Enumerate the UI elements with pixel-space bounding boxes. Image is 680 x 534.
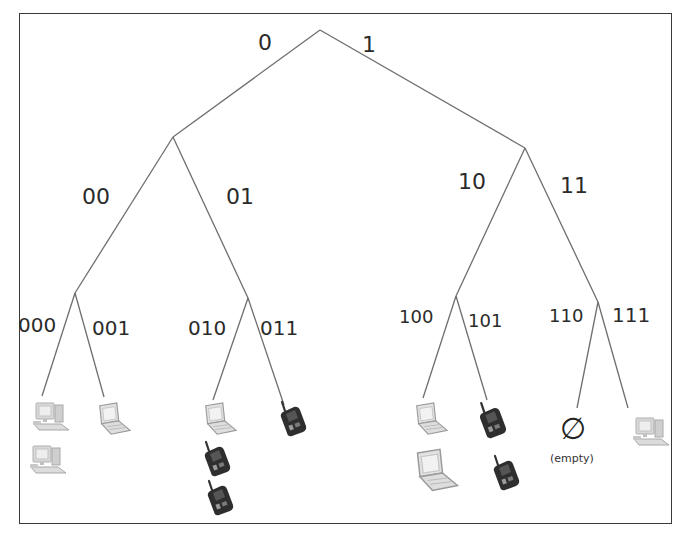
edge-label-001: 001 (92, 318, 130, 338)
phone-icon (205, 442, 230, 476)
desktop-icon (33, 403, 69, 430)
laptop-icon (417, 403, 447, 434)
phone-icon (208, 481, 233, 515)
edge-label-0: 0 (258, 32, 272, 54)
edge-label-010: 010 (188, 318, 226, 338)
edge-label-000: 000 (18, 315, 56, 335)
edge-label-101: 101 (468, 312, 502, 330)
phone-icon (494, 456, 519, 490)
desktop-icon (30, 446, 66, 473)
edge-label-100: 100 (399, 308, 433, 326)
edge-label-11: 11 (560, 175, 588, 197)
edge-label-10: 10 (458, 171, 486, 193)
edge-label-01: 01 (226, 186, 254, 208)
edge-lines (42, 30, 628, 408)
edge-label-111: 111 (612, 305, 650, 325)
laptop-icon (100, 403, 130, 434)
laptop-icon (206, 403, 236, 434)
phone-icon (281, 402, 306, 436)
phone-icon (480, 403, 506, 438)
edge-label-1: 1 (362, 34, 376, 56)
empty-label: (empty) (550, 453, 594, 464)
edge-label-110: 110 (549, 307, 583, 325)
edge-label-011: 011 (260, 318, 298, 338)
laptop-icon (418, 449, 458, 490)
desktop-icon (633, 418, 669, 445)
trie-diagram: 0 1 00 01 10 11 000 001 010 011 100 101 … (0, 0, 680, 534)
edge-label-00: 00 (82, 186, 110, 208)
empty-set-icon: ∅ (560, 414, 586, 444)
